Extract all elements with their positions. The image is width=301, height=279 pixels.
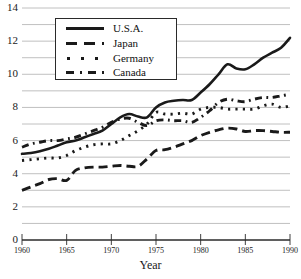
- legend-entry-canada: Canada: [56, 65, 176, 80]
- legend-entry-usa: U.S.A.: [56, 21, 176, 36]
- x-axis-tick-label: 1985: [229, 247, 261, 255]
- x-axis-tick-label: 1960: [6, 247, 38, 255]
- x-axis-tick-label: 1970: [95, 247, 127, 255]
- y-axis-tick-label: 14: [0, 2, 18, 13]
- chart-container: 02468101214 1960196519701975198019851990…: [0, 0, 301, 279]
- y-axis-tick-label: 4: [0, 168, 18, 179]
- legend-label-germany: Germany: [113, 52, 154, 65]
- series-line-japan: [22, 128, 290, 190]
- y-axis-tick-label: 2: [0, 201, 18, 212]
- legend-label-japan: Japan: [113, 37, 138, 50]
- legend-label-usa: U.S.A.: [113, 22, 143, 35]
- x-axis-title: Year: [0, 258, 301, 273]
- y-axis-tick-label: 12: [0, 35, 18, 46]
- legend-entry-germany: Germany: [56, 51, 176, 66]
- x-axis-tick-label: 1975: [140, 247, 172, 255]
- legend-label-canada: Canada: [113, 66, 146, 79]
- x-axis-tick-label: 1990: [274, 247, 301, 255]
- chart-legend: U.S.A. Japan Germany Canada: [55, 18, 177, 80]
- series-line-canada: [22, 94, 290, 147]
- legend-entry-japan: Japan: [56, 36, 176, 51]
- y-axis-tick-label: 0: [0, 234, 18, 245]
- y-axis-tick-label: 10: [0, 68, 18, 79]
- x-axis-tick-label: 1965: [51, 247, 83, 255]
- legend-line-sample-dashed: [64, 36, 106, 51]
- x-axis-tick-label: 1980: [185, 247, 217, 255]
- legend-line-sample-dashdot: [64, 65, 106, 80]
- legend-line-sample-solid: [64, 21, 106, 36]
- legend-line-sample-dotted: [64, 51, 106, 66]
- y-axis-tick-label: 8: [0, 101, 18, 112]
- y-axis-tick-label: 6: [0, 135, 18, 146]
